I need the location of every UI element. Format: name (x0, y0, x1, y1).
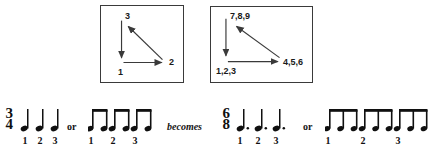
time-signature-six-eight: 6 8 (219, 108, 233, 130)
diagram-arrows-left (101, 6, 183, 82)
beat-number: 1 (19, 136, 31, 146)
dotted-quarter-notes-group (236, 105, 294, 135)
rhythm-notation-row: 3 4 1 2 3 or (0, 100, 442, 165)
beat-number: 3 (129, 136, 141, 146)
beat-number: 2 (357, 136, 369, 146)
beat-number: 2 (252, 136, 264, 146)
beat-number: 2 (34, 136, 46, 146)
beat-number: 2 (107, 136, 119, 146)
time-signature-denominator: 4 (2, 119, 16, 130)
quarter-notes-group (20, 105, 68, 135)
diagram-node-label-bottom-right: 4,5,6 (283, 58, 303, 67)
time-signature-three-four: 3 4 (2, 108, 16, 130)
connector-becomes: becomes (167, 121, 202, 132)
diagram-node-label-bottom-left: 1 (118, 68, 123, 77)
beamed-eighth-pairs-group (88, 105, 158, 135)
diagram-node-label-top-left: 3 (125, 12, 130, 21)
diagram-node-label-bottom-right: 2 (169, 58, 174, 67)
connector-or-first: or (67, 121, 76, 132)
beat-number: 1 (322, 136, 334, 146)
measure-three-four-quarters: 3 4 1 2 3 (2, 100, 62, 165)
figure-canvas: 3 1 2 7,8,9 1,2,3 4,5,6 3 4 (0, 0, 442, 165)
arrow-bottom-right-to-top-left (128, 26, 162, 59)
diagram-node-label-bottom-left: 1,2,3 (216, 67, 236, 76)
diagram-box-nine-pulse-cycle: 7,8,9 1,2,3 4,5,6 (210, 6, 313, 83)
beamed-eighth-triplets-group (325, 105, 437, 135)
measure-six-eight-eighth-triplets: 1 2 3 (325, 100, 437, 165)
beat-number: 1 (234, 136, 246, 146)
beat-number: 3 (270, 136, 282, 146)
measure-three-four-eighths: 1 2 3 (88, 100, 160, 165)
beat-number: 3 (392, 136, 404, 146)
beat-number: 1 (85, 136, 97, 146)
diagram-node-label-top-left: 7,8,9 (230, 12, 250, 21)
diagram-box-three-beat-cycle: 3 1 2 (100, 5, 184, 83)
beat-number: 3 (49, 136, 61, 146)
time-signature-denominator: 8 (219, 119, 233, 130)
arrow-bottom-right-to-top-left (237, 26, 280, 57)
connector-or-second: or (303, 121, 312, 132)
measure-six-eight-dotted-quarters: 6 8 1 2 (219, 100, 289, 165)
